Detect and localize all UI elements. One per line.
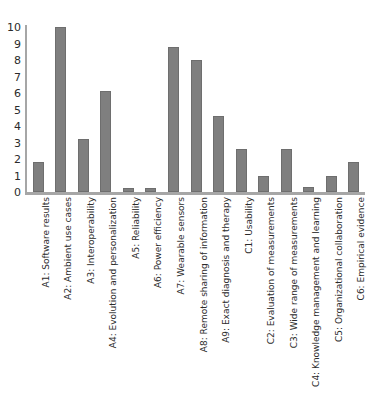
x-axis-line bbox=[25, 192, 365, 195]
y-axis-tick-label: 2 bbox=[14, 154, 21, 165]
bar bbox=[145, 188, 156, 192]
bar bbox=[55, 27, 66, 192]
x-axis-tick-label: A7: Wearable sensors bbox=[177, 197, 186, 295]
x-axis-tick-label: A2: Ambient use cases bbox=[64, 197, 73, 300]
y-axis-tick-label: 3 bbox=[14, 137, 21, 148]
y-axis-tick-label: 4 bbox=[14, 121, 21, 132]
y-axis-tick-label: 5 bbox=[14, 104, 21, 115]
bar bbox=[100, 91, 111, 192]
x-axis-tick-label: A1: Software results bbox=[42, 197, 51, 287]
x-axis-tick-label: C5: Organizational collaboration bbox=[335, 197, 344, 342]
bar bbox=[303, 187, 314, 192]
y-axis-tick-label: 7 bbox=[14, 71, 21, 82]
y-axis-tick-label: 9 bbox=[14, 38, 21, 49]
bar bbox=[191, 60, 202, 192]
bar bbox=[78, 139, 89, 192]
x-axis-tick-label: A9: Exact diagnosis and therapy bbox=[222, 197, 231, 343]
bars-container bbox=[27, 27, 365, 192]
x-axis-tick-label: C6: Empirical evidence bbox=[357, 197, 366, 300]
plot-area: 109876543210 bbox=[0, 0, 372, 200]
bar bbox=[326, 176, 337, 193]
bar bbox=[258, 176, 269, 193]
x-axis-tick-label: A6: Power efficiency bbox=[154, 197, 163, 288]
bar bbox=[168, 47, 179, 192]
bar-chart: 109876543210 A1: Software resultsA2: Amb… bbox=[0, 0, 372, 407]
bar bbox=[213, 116, 224, 192]
bar bbox=[281, 149, 292, 192]
y-axis-tick-label: 0 bbox=[14, 187, 21, 198]
x-axis-tick-label: C1: Usability bbox=[245, 197, 254, 254]
bar bbox=[33, 162, 44, 192]
y-axis-tick-label: 1 bbox=[14, 170, 21, 181]
y-axis-tick-label: 8 bbox=[14, 55, 21, 66]
x-axis-tick-label: A3: Interoperability bbox=[87, 197, 96, 284]
y-axis-tick-label: 10 bbox=[7, 22, 21, 33]
x-axis-tick-label: A5: Reliability bbox=[132, 197, 141, 259]
y-axis-tick-labels: 109876543210 bbox=[0, 0, 24, 200]
bar bbox=[348, 162, 359, 192]
x-axis-tick-label: C2: Evaluation of measurements bbox=[267, 197, 276, 344]
x-axis-tick-label: A8: Remote sharing of information bbox=[200, 197, 209, 352]
bar bbox=[236, 149, 247, 192]
bar bbox=[123, 188, 134, 192]
y-axis-tick-label: 6 bbox=[14, 88, 21, 99]
x-axis-tick-label: C4: Knowledge management and learning bbox=[312, 197, 321, 387]
x-axis-tick-labels: A1: Software resultsA2: Ambient use case… bbox=[27, 197, 365, 407]
x-axis-tick-label: A4: Evolution and personalization bbox=[109, 197, 118, 348]
x-axis-tick-label: C3: Wide range of measurements bbox=[290, 197, 299, 348]
